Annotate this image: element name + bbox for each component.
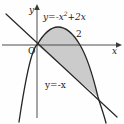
parabola-equation-label: y=-x2+2x [43, 11, 86, 22]
line-equation-label: y=-x [45, 81, 66, 90]
x-axis-label: x [112, 47, 117, 56]
y-axis-arrow [34, 4, 40, 10]
y-axis-label: y [29, 6, 34, 15]
function-graph-figure: y=-x2+2x y=-x O 2 x y [0, 0, 124, 124]
x-tick-label-2: 2 [76, 30, 82, 39]
parabola-equation-head: y=-x [43, 12, 64, 22]
origin-label: O [28, 47, 35, 56]
parabola-equation-tail: +2x [68, 12, 86, 22]
